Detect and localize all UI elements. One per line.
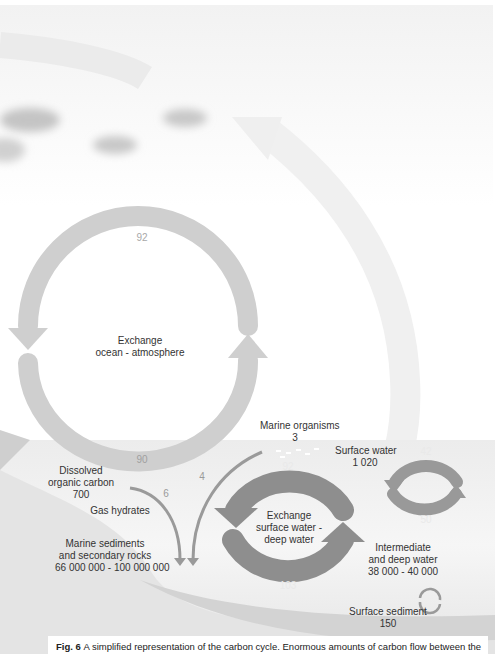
surface-sediment-label: Surface sediment 150 [348, 606, 428, 630]
dissolved-organic-carbon-label: Dissolved organic carbon 700 [40, 465, 122, 501]
deep-cycle-bottom-flux: 103 [274, 580, 302, 592]
doc-line2: organic carbon [40, 477, 122, 489]
doc-value: 700 [40, 489, 122, 501]
flux-6-label: 6 [160, 488, 172, 500]
surface-water-label: Surface water 1 020 [335, 445, 395, 469]
deep-exchange-line2: surface water - [254, 522, 324, 534]
cloud [0, 108, 60, 132]
atmosphere-top-flux: 92 [130, 232, 154, 244]
flux-4-label: 4 [196, 471, 208, 483]
surface-sediment-text: Surface sediment [348, 606, 428, 618]
marine-sediments-value: 66 000 000 - 100 000 000 [55, 562, 155, 574]
small-cycle-top-flux: 42 [414, 446, 438, 458]
intermediate-value: 38 000 - 40 000 [358, 566, 448, 578]
marine-organisms-text: Marine organisms [260, 420, 330, 432]
atmosphere-cycle-right-arrowhead [228, 334, 268, 358]
gas-hydrates-label: Gas hydrates [90, 505, 150, 517]
intermediate-line2: and deep water [358, 554, 448, 566]
intermediate-deep-water-label: Intermediate and deep water 38 000 - 40 … [358, 542, 448, 578]
surface-water-value: 1 020 [335, 457, 395, 469]
atmosphere-cycle-left-arrowhead [8, 328, 48, 350]
deep-exchange-label: Exchange surface water - deep water [254, 510, 324, 546]
marine-sediments-line2: and secondary rocks [55, 550, 155, 562]
surface-water-text: Surface water [335, 445, 395, 457]
atmosphere-bottom-flux: 90 [130, 454, 154, 466]
atmosphere-exchange-label: Exchange ocean - atmosphere [90, 335, 190, 359]
marine-sediments-line1: Marine sediments [55, 538, 155, 550]
cloud [163, 109, 207, 127]
surface-sediment-value: 150 [348, 618, 428, 630]
marine-organisms-label: Marine organisms 3 [260, 420, 330, 444]
atmosphere-exchange-line2: ocean - atmosphere [90, 347, 190, 359]
deep-cycle-top-flux: 92 [276, 461, 300, 473]
intermediate-line1: Intermediate [358, 542, 448, 554]
carbon-cycle-diagram: 92 Exchange ocean - atmosphere 90 Dissol… [0, 0, 499, 654]
figure-label: Fig. 6 [56, 641, 83, 652]
marine-organisms-value: 3 [260, 432, 330, 444]
sky-background [0, 5, 493, 205]
cloud [93, 136, 137, 154]
caption-text: A simplified representation of the carbo… [83, 641, 481, 652]
deep-exchange-line1: Exchange [254, 510, 324, 522]
small-cycle-bottom-flux: 50 [414, 514, 438, 526]
marine-sediments-label: Marine sediments and secondary rocks 66 … [55, 538, 155, 574]
figure-caption: Fig. 6 A simplified representation of th… [48, 636, 488, 654]
atmosphere-exchange-line1: Exchange [90, 335, 190, 347]
doc-line1: Dissolved [40, 465, 122, 477]
deep-exchange-line3: deep water [254, 534, 324, 546]
